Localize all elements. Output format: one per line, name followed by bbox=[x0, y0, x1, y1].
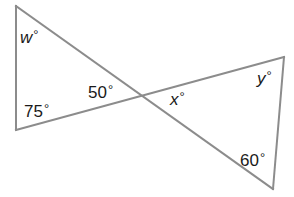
degree-symbol: ° bbox=[267, 68, 272, 83]
angle-label-50: 50° bbox=[88, 84, 113, 101]
degree-symbol: ° bbox=[180, 89, 185, 104]
angle-value: 60 bbox=[240, 151, 259, 170]
angle-variable: w bbox=[20, 28, 32, 47]
angle-variable: y bbox=[257, 69, 266, 88]
diagonal-top-left-to-bottom-right bbox=[16, 6, 273, 189]
angle-label-75: 75° bbox=[24, 103, 49, 120]
angle-label-y: y° bbox=[257, 70, 272, 87]
angle-value: 50 bbox=[88, 83, 107, 102]
angle-label-60: 60° bbox=[240, 152, 265, 169]
diagonal-bottom-left-to-top-right bbox=[16, 57, 284, 130]
degree-symbol: ° bbox=[260, 150, 265, 165]
angle-label-x: x° bbox=[170, 91, 185, 108]
degree-symbol: ° bbox=[33, 27, 38, 42]
degree-symbol: ° bbox=[44, 101, 49, 116]
angle-value: 75 bbox=[24, 102, 43, 121]
angle-label-w: w° bbox=[20, 29, 38, 46]
angle-variable: x bbox=[170, 90, 179, 109]
right-side bbox=[273, 57, 284, 189]
degree-symbol: ° bbox=[108, 82, 113, 97]
